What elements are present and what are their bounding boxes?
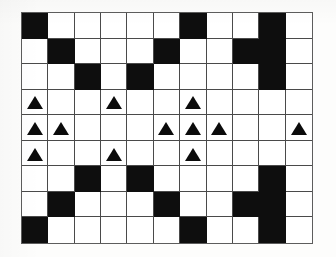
grid-cell-filled-r8-c0 (22, 217, 48, 243)
grid-cell-empty-r5-c7 (207, 141, 233, 167)
grid-cell-empty-r1-c4 (127, 39, 153, 65)
grid-cell-empty-r3-c7 (207, 90, 233, 116)
grid-cell-empty-r8-c10 (286, 217, 312, 243)
grid-cell-empty-r3-c5 (154, 90, 180, 116)
grid-cell-empty-r0-c8 (233, 13, 259, 39)
grid-cell-marker-r3-c0 (22, 90, 48, 116)
grid-cell-empty-r7-c0 (22, 192, 48, 218)
grid-cell-empty-r8-c7 (207, 217, 233, 243)
grid-cell-empty-r5-c4 (127, 141, 153, 167)
triangle-up-icon (27, 122, 43, 135)
grid-cell-marker-r5-c3 (101, 141, 127, 167)
grid-cell-empty-r0-c3 (101, 13, 127, 39)
grid-frame (21, 12, 313, 244)
grid-cell-empty-r2-c5 (154, 64, 180, 90)
triangle-up-icon (27, 148, 43, 161)
grid-cell-marker-r4-c6 (180, 115, 206, 141)
grid-cell-empty-r3-c2 (75, 90, 101, 116)
grid-cell-filled-r1-c9 (259, 39, 285, 65)
grid-cell-empty-r6-c10 (286, 166, 312, 192)
grid-cell-filled-r0-c6 (180, 13, 206, 39)
grid-cell-empty-r8-c1 (48, 217, 74, 243)
grid-cell-empty-r2-c1 (48, 64, 74, 90)
grid-cell-empty-r7-c3 (101, 192, 127, 218)
grid-cell-empty-r0-c5 (154, 13, 180, 39)
grid-cell-filled-r7-c5 (154, 192, 180, 218)
grid-cell-filled-r6-c9 (259, 166, 285, 192)
grid-cell-empty-r0-c2 (75, 13, 101, 39)
grid-cell-empty-r5-c8 (233, 141, 259, 167)
grid-cell-empty-r2-c6 (180, 64, 206, 90)
grid-cell-filled-r7-c8 (233, 192, 259, 218)
grid-cell-empty-r1-c2 (75, 39, 101, 65)
grid-cell-empty-r5-c5 (154, 141, 180, 167)
grid-cell-filled-r8-c6 (180, 217, 206, 243)
grid-cell-empty-r6-c3 (101, 166, 127, 192)
triangle-up-icon (211, 122, 227, 135)
grid-cell-filled-r1-c8 (233, 39, 259, 65)
grid-cell-empty-r2-c0 (22, 64, 48, 90)
triangle-up-icon (185, 122, 201, 135)
grid-cell-filled-r2-c9 (259, 64, 285, 90)
grid-cell-marker-r5-c0 (22, 141, 48, 167)
grid-cell-marker-r4-c1 (48, 115, 74, 141)
grid-cell-marker-r4-c0 (22, 115, 48, 141)
grid-cell-empty-r4-c4 (127, 115, 153, 141)
grid-cell-filled-r1-c5 (154, 39, 180, 65)
grid-cell-empty-r1-c10 (286, 39, 312, 65)
grid-cell-empty-r6-c1 (48, 166, 74, 192)
grid-cell-empty-r6-c6 (180, 166, 206, 192)
triangle-up-icon (185, 148, 201, 161)
grid-cell-filled-r2-c2 (75, 64, 101, 90)
grid-cell-filled-r7-c1 (48, 192, 74, 218)
grid-cell-empty-r7-c6 (180, 192, 206, 218)
grid-cell-empty-r5-c10 (286, 141, 312, 167)
grid-cell-empty-r8-c8 (233, 217, 259, 243)
grid-cell-empty-r2-c7 (207, 64, 233, 90)
grid-cell-empty-r3-c10 (286, 90, 312, 116)
grid-cell-filled-r2-c4 (127, 64, 153, 90)
grid-cell-filled-r0-c0 (22, 13, 48, 39)
grid-cell-empty-r2-c10 (286, 64, 312, 90)
grid-cell-empty-r2-c3 (101, 64, 127, 90)
grid-cell-empty-r4-c8 (233, 115, 259, 141)
grid-cell-empty-r4-c2 (75, 115, 101, 141)
grid-cell-empty-r6-c0 (22, 166, 48, 192)
grid-cell-empty-r7-c7 (207, 192, 233, 218)
grid-cell-empty-r2-c8 (233, 64, 259, 90)
grid-cell-empty-r3-c1 (48, 90, 74, 116)
grid-cell-empty-r4-c9 (259, 115, 285, 141)
grid-cell-empty-r0-c1 (48, 13, 74, 39)
grid-cell-empty-r5-c1 (48, 141, 74, 167)
grid-cell-empty-r4-c3 (101, 115, 127, 141)
grid-cell-marker-r4-c7 (207, 115, 233, 141)
grid-cell-empty-r8-c5 (154, 217, 180, 243)
grid-cell-empty-r3-c4 (127, 90, 153, 116)
triangle-up-icon (106, 96, 122, 109)
grid-cell-empty-r7-c2 (75, 192, 101, 218)
grid-cell-empty-r3-c9 (259, 90, 285, 116)
grid-cell-empty-r6-c7 (207, 166, 233, 192)
grid-cell-empty-r8-c3 (101, 217, 127, 243)
grid-cell-filled-r8-c9 (259, 217, 285, 243)
grid-cell-filled-r6-c4 (127, 166, 153, 192)
grid-cell-marker-r3-c3 (101, 90, 127, 116)
triangle-up-icon (291, 122, 307, 135)
grid-cell-empty-r5-c2 (75, 141, 101, 167)
grid-cell-empty-r7-c10 (286, 192, 312, 218)
grid-cell-filled-r0-c9 (259, 13, 285, 39)
grid-cell-empty-r1-c3 (101, 39, 127, 65)
triangle-up-icon (158, 122, 174, 135)
grid-cell-filled-r6-c2 (75, 166, 101, 192)
grid-cell-empty-r3-c8 (233, 90, 259, 116)
grid-cell-empty-r6-c5 (154, 166, 180, 192)
grid-cell-marker-r3-c6 (180, 90, 206, 116)
grid-cell-marker-r4-c10 (286, 115, 312, 141)
grid-cell-filled-r7-c9 (259, 192, 285, 218)
grid-cell-marker-r5-c6 (180, 141, 206, 167)
grid-cell-empty-r5-c9 (259, 141, 285, 167)
grid-cell-empty-r0-c10 (286, 13, 312, 39)
grid-cell-empty-r1-c0 (22, 39, 48, 65)
triangle-up-icon (106, 148, 122, 161)
grid-cell-empty-r0-c4 (127, 13, 153, 39)
